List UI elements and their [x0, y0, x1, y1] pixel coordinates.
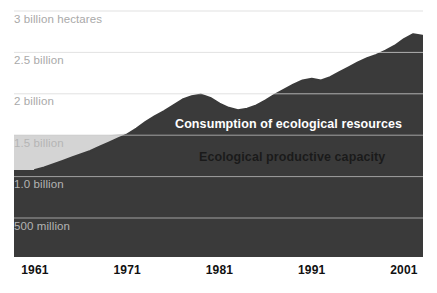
plot-area: 3 billion hectares2.5 billion2 billion1.… — [14, 0, 423, 257]
series-label-capacity: Ecological productive capacity — [199, 150, 385, 164]
x-tick-label: 1971 — [97, 263, 157, 277]
x-tick-label: 2001 — [374, 263, 434, 277]
x-axis-labels: 19611971198119912001 — [0, 259, 437, 281]
y-tick-label: 3 billion hectares — [14, 13, 102, 26]
y-tick-label: 1.5 billion — [14, 137, 64, 150]
x-tick-label: 1981 — [190, 263, 250, 277]
y-tick-label: 2 billion — [14, 95, 54, 108]
chart-figure: 3 billion hectares2.5 billion2 billion1.… — [0, 0, 437, 293]
y-tick-label: 500 million — [14, 220, 70, 233]
y-tick-label: 2.5 billion — [14, 54, 64, 67]
series-label-consumption: Consumption of ecological resources — [175, 117, 402, 131]
y-tick-label: 1.0 billion — [14, 178, 64, 191]
x-tick-label: 1961 — [5, 263, 65, 277]
x-tick-label: 1991 — [282, 263, 342, 277]
